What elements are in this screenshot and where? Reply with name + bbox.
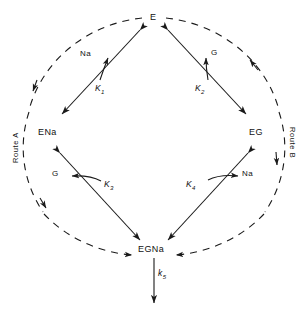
diagram-canvas [0,0,308,315]
edge-eg-egna [168,153,248,240]
rate-label-k5: k5 [158,269,166,280]
rate-label-k1: K1 [95,84,105,95]
rate-k2-subscript: 2 [201,89,205,95]
route-b-label: Route B [289,127,297,158]
rate-label-k4: K4 [186,180,196,191]
rate-label-k2: K2 [195,84,205,95]
rate-k5-subscript: 5 [163,274,167,280]
rate-k1-subscript: 1 [101,89,105,95]
ligand-na-lower-right: Na [242,170,253,178]
ligand-g-upper-right: G [211,49,218,57]
node-ena: ENa [38,128,57,137]
ligand-g-lower-left: G [52,170,59,178]
node-egna: EGNa [138,245,164,254]
route-b-dashed-arc [166,18,285,255]
node-eg: EG [249,128,263,137]
kinetic-scheme-diagram: E ENa EG EGNa Na G G Na K1 K2 K3 K4 k5 R… [0,0,308,315]
node-e: E [150,13,156,22]
ligand-na-upper-left: Na [80,50,91,58]
route-a-label: Route A [12,132,20,163]
edge-ena-egna [60,153,140,240]
rate-k4-subscript: 4 [192,185,196,191]
edge-e-eg [168,30,246,114]
rate-k3-subscript: 3 [110,185,114,191]
rate-label-k3: K3 [104,180,114,191]
edge-e-ena [62,30,140,114]
